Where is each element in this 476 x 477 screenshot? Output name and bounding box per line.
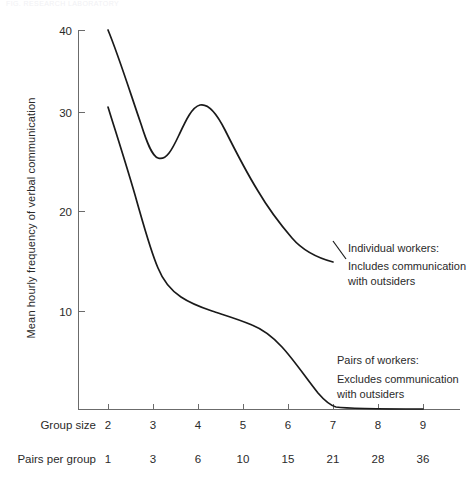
figure-root: FIG. RESEARCH LABORATORY 40 30 20 10 Mea… (0, 0, 476, 477)
series-line-individual-workers (108, 30, 333, 262)
legend-lower-line2: Excludes communication (337, 373, 459, 385)
group-size-value: 7 (330, 419, 336, 431)
row-label-group-size: Group size (40, 419, 96, 431)
pairs-per-group-value: 28 (372, 453, 385, 465)
y-tick-label-40: 40 (59, 25, 72, 37)
pairs-per-group-value: 6 (195, 453, 201, 465)
group-size-value: 4 (195, 419, 202, 431)
y-axis-title: Mean hourly frequency of verbal communic… (25, 98, 37, 339)
pairs-per-group-value: 1 (105, 453, 111, 465)
group-size-value: 9 (420, 419, 426, 431)
pairs-per-group-value: 15 (282, 453, 295, 465)
pairs-per-group-value: 10 (237, 453, 250, 465)
legend-upper-line1: Individual workers: (348, 242, 439, 254)
line-chart: 40 30 20 10 Mean hourly frequency of ver… (0, 0, 476, 477)
pairs-per-group-value: 36 (417, 453, 430, 465)
legend-upper-line3: with outsiders (347, 275, 416, 287)
legend-leader-upper (333, 241, 346, 259)
x-axis-group-size-values: 2 3 4 5 6 7 8 9 (105, 419, 426, 431)
group-size-value: 8 (375, 419, 381, 431)
row-label-pairs-per-group: Pairs per group (17, 453, 96, 465)
x-axis-pairs-per-group-values: 1 3 6 10 15 21 28 36 (105, 453, 430, 465)
y-tick-marks (79, 31, 85, 312)
legend-lower-line3: with outsiders (336, 388, 405, 400)
pairs-per-group-value: 3 (150, 453, 156, 465)
group-size-value: 5 (240, 419, 246, 431)
legend-upper-line2: Includes communication (348, 260, 466, 272)
y-tick-label-30: 30 (59, 107, 72, 119)
y-tick-label-20: 20 (59, 206, 72, 218)
group-size-value: 6 (285, 419, 291, 431)
y-tick-label-10: 10 (59, 306, 72, 318)
pairs-per-group-value: 21 (327, 453, 340, 465)
group-size-value: 2 (105, 419, 111, 431)
group-size-value: 3 (150, 419, 156, 431)
legend-lower-line1: Pairs of workers: (337, 354, 419, 366)
